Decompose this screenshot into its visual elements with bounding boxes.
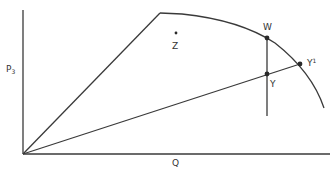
point-y1-marker xyxy=(298,62,303,67)
frontier-ray xyxy=(23,13,160,154)
y-axis-label-subscript: 3 xyxy=(11,68,15,75)
point-y1-label: Y1 xyxy=(306,57,317,68)
point-y-label: Y xyxy=(269,79,276,89)
point-y1-superscript: 1 xyxy=(313,57,317,64)
frontier-curve xyxy=(160,13,324,108)
ray-origin-to-y1 xyxy=(23,64,300,154)
point-z-label: Z xyxy=(172,41,178,51)
x-axis-label: Q xyxy=(172,158,179,168)
point-z-marker xyxy=(175,32,178,35)
y-axis-label: P3 xyxy=(6,64,15,75)
point-w-label: W xyxy=(263,22,272,32)
production-frontier-diagram: P3 Q W Z Y Y1 xyxy=(0,0,336,174)
point-y-marker xyxy=(265,72,270,77)
point-w-marker xyxy=(265,36,270,41)
